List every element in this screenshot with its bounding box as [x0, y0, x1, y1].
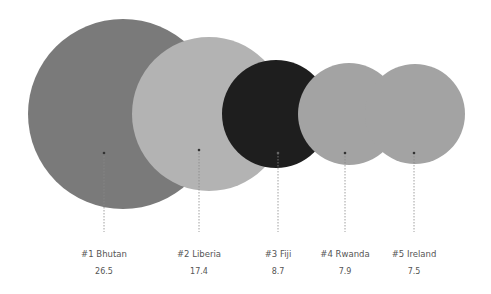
- label-rwanda: #4 Rwanda: [320, 249, 369, 259]
- bubble-chart: #1 Bhutan 26.5 #2 Liberia 17.4 #3 Fiji 8…: [0, 0, 491, 294]
- value-rwanda: 7.9: [339, 267, 352, 276]
- value-ireland: 7.5: [408, 267, 421, 276]
- value-fiji: 8.7: [272, 267, 285, 276]
- anchor-dot-rwanda: [344, 152, 347, 155]
- value-liberia: 17.4: [190, 267, 208, 276]
- anchor-dot-bhutan: [103, 152, 106, 155]
- anchor-dot-liberia: [198, 149, 201, 152]
- label-ireland: #5 Ireland: [392, 249, 437, 259]
- anchor-dot-ireland: [413, 152, 416, 155]
- value-bhutan: 26.5: [95, 267, 113, 276]
- label-bhutan: #1 Bhutan: [81, 249, 127, 259]
- label-fiji: #3 Fiji: [265, 249, 292, 259]
- bubble-ireland: [365, 64, 465, 164]
- anchor-dot-fiji: [277, 152, 280, 155]
- label-liberia: #2 Liberia: [177, 249, 221, 259]
